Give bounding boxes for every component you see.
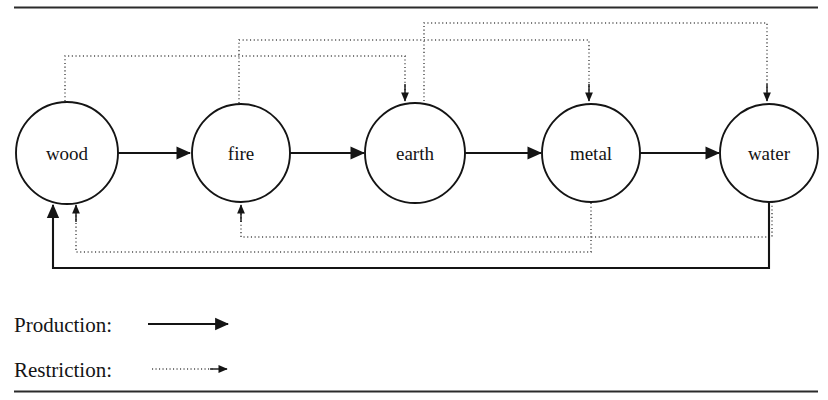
legend-row-restriction: Restriction: bbox=[14, 358, 227, 382]
node-label-wood: wood bbox=[46, 143, 89, 164]
node-label-water: water bbox=[748, 143, 791, 164]
restriction-edge-metal-wood bbox=[76, 203, 591, 252]
node-fire[interactable]: fire bbox=[192, 104, 290, 202]
node-water[interactable]: water bbox=[720, 104, 818, 202]
five-elements-cycle-diagram: wood fire earth metal water Produ bbox=[0, 0, 828, 400]
node-wood[interactable]: wood bbox=[16, 102, 118, 204]
production-edge-water-wood bbox=[53, 202, 769, 268]
legend-label-restriction: Restriction: bbox=[14, 358, 112, 382]
legend-label-production: Production: bbox=[14, 313, 112, 337]
restriction-edge-water-fire bbox=[241, 202, 772, 237]
node-earth[interactable]: earth bbox=[365, 103, 465, 203]
legend-row-production: Production: bbox=[14, 313, 228, 337]
figure-page: wood fire earth metal water Produ bbox=[0, 0, 828, 400]
legend: Production: Restriction: bbox=[14, 313, 228, 382]
node-label-fire: fire bbox=[228, 143, 254, 164]
restriction-edge-wood-earth bbox=[65, 56, 405, 101]
node-label-earth: earth bbox=[396, 143, 434, 164]
node-metal[interactable]: metal bbox=[542, 104, 640, 202]
restriction-edge-fire-metal bbox=[239, 40, 589, 103]
node-label-metal: metal bbox=[570, 143, 612, 164]
restriction-edge-earth-water bbox=[424, 23, 767, 101]
